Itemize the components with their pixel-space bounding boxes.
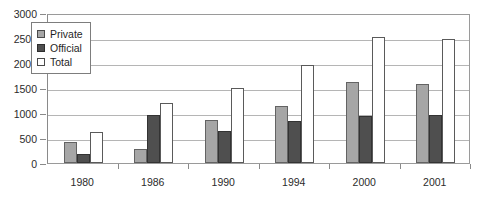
bar-private-1994 [275,106,288,163]
bar-private-1986 [134,149,147,163]
bar-official-1980 [77,154,90,163]
y-tick-label-3000: 3000 [14,9,37,20]
gridline-1500 [48,90,469,91]
x-tick-mark-1994 [329,164,330,169]
bar-group-2001 [416,15,455,163]
x-tick-mark-1990 [259,164,260,169]
x-tick-mark-2001 [470,164,471,169]
bar-total-1980 [90,132,103,163]
bar-group-1994 [275,15,314,163]
x-tick-mark-1986 [188,164,189,169]
x-tick-mark-2000 [400,164,401,169]
legend-label-private: Private [50,29,83,40]
y-tick-mark-500 [40,139,46,140]
legend-swatch-total-icon [37,58,45,66]
gridline-2500 [48,40,469,41]
bar-official-1990 [218,131,231,163]
bar-total-1986 [160,103,173,164]
bar-total-2000 [372,37,385,164]
y-tick-mark-0 [40,164,46,165]
chart-legend: PrivateOfficialTotal [31,22,91,74]
legend-label-official: Official [50,43,82,54]
bar-private-1990 [205,120,218,163]
bar-group-2000 [346,15,385,163]
y-tick-label-0: 0 [31,159,37,170]
bar-total-2001 [442,39,455,164]
x-tick-label-1986: 1986 [141,176,164,188]
legend-swatch-official-icon [37,44,45,52]
x-tick-label-2001: 2001 [423,176,446,188]
bar-official-1994 [288,121,301,164]
gridline-500 [48,140,469,141]
y-tick-mark-1000 [40,114,46,115]
bar-official-2001 [429,115,442,163]
bar-private-2001 [416,84,429,164]
gridline-1000 [48,115,469,116]
y-tick-mark-3000 [40,14,46,15]
y-tick-mark-1500 [40,89,46,90]
plot-area [47,14,470,164]
bar-group-1990 [205,15,244,163]
bar-total-1994 [301,65,314,163]
x-tick-label-1980: 1980 [71,176,94,188]
x-tick-label-1990: 1990 [212,176,235,188]
x-tick-label-2000: 2000 [353,176,376,188]
bar-group-1986 [134,15,173,163]
bar-private-1980 [64,142,77,163]
bar-private-2000 [346,82,359,163]
y-tick-label-1000: 1000 [14,109,37,120]
bar-official-2000 [359,116,372,164]
legend-item-official: Official [37,41,83,55]
x-axis: 198019861990199420002001 [47,164,470,199]
legend-label-total: Total [50,57,72,68]
y-tick-label-1500: 1500 [14,84,37,95]
legend-swatch-private-icon [37,30,45,38]
gridline-2000 [48,65,469,66]
x-tick-mark-1980 [118,164,119,169]
bar-chart: 050010001500200025003000 198019861990199… [0,0,482,199]
y-tick-label-500: 500 [19,134,37,145]
bar-total-1990 [231,88,244,163]
legend-item-private: Private [37,27,83,41]
legend-item-total: Total [37,55,83,69]
bar-official-1986 [147,115,160,163]
x-tick-label-1994: 1994 [282,176,305,188]
